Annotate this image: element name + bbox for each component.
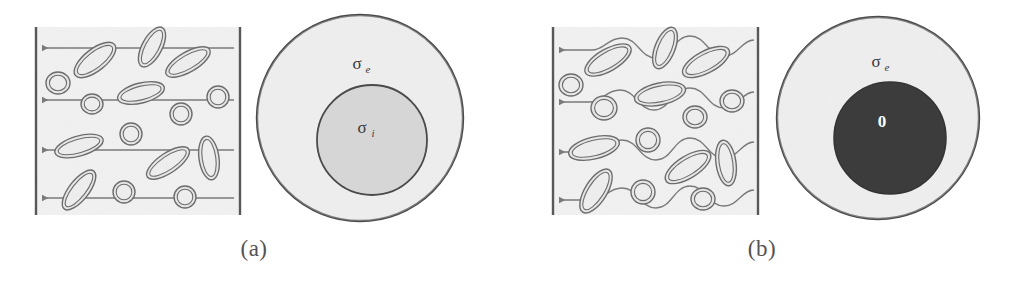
panel-a-graphic: σ e σ i <box>0 0 508 236</box>
outer-conductivity-subscript: e <box>885 61 890 73</box>
inclusion <box>207 86 229 108</box>
inclusion <box>691 188 715 210</box>
outer-conductivity-symbol: σ <box>352 54 361 73</box>
inner-conductivity-value: 0 <box>878 112 887 131</box>
panel-b: σ e 0 (b) <box>508 0 1016 292</box>
inclusion <box>113 181 135 203</box>
panel-b-graphic: σ e 0 <box>508 0 1016 236</box>
inclusion <box>46 72 70 94</box>
inner-circle <box>317 85 427 195</box>
composite-rve-square-a <box>36 23 240 215</box>
inclusion <box>631 180 655 204</box>
inner-circle <box>834 82 946 194</box>
figure-container: σ e σ i (a) <box>0 0 1016 292</box>
equivalent-inclusion-circle-b: σ e 0 <box>777 17 979 219</box>
composite-rve-square-b <box>553 24 758 218</box>
inclusion <box>591 96 617 120</box>
inclusion <box>120 123 142 145</box>
outer-conductivity-subscript: e <box>366 63 371 75</box>
outer-conductivity-symbol: σ <box>871 52 880 71</box>
inclusion <box>81 94 103 114</box>
inner-conductivity-symbol: σ <box>357 118 366 137</box>
panel-caption-b: (b) <box>508 236 1016 262</box>
panel-caption-a: (a) <box>0 236 508 262</box>
inclusion <box>683 106 707 128</box>
inclusion <box>170 103 192 125</box>
panel-a: σ e σ i (a) <box>0 0 508 292</box>
inclusion <box>636 128 660 152</box>
equivalent-inclusion-circle-a: σ e σ i <box>257 15 463 221</box>
inclusion <box>174 186 196 208</box>
inclusion <box>559 74 583 96</box>
inclusion <box>720 90 744 112</box>
inner-conductivity-subscript: i <box>371 127 374 139</box>
